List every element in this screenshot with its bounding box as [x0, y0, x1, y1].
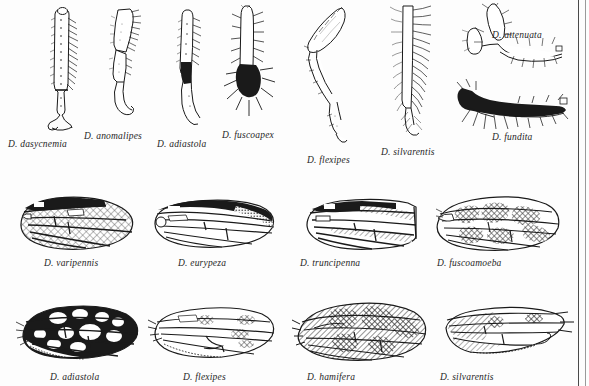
specimen-wing-hamifera [292, 296, 432, 364]
label-wing-varipennis: D. varipennis [44, 258, 98, 268]
specimen-wing-eurypeza [148, 194, 280, 252]
page-edge-border-outer [585, 0, 586, 386]
label-leg-adiastola: D. adiastola [157, 139, 206, 149]
specimen-wing-silvarentis [440, 302, 574, 362]
specimen-leg-silvarentis [386, 4, 442, 136]
label-wing-flexipes: D. flexipes [183, 372, 226, 382]
label-leg-fundita: D. fundita [492, 132, 533, 142]
specimen-leg-adiastola [168, 8, 210, 132]
label-wing-fuscoamoeba: D. fuscoamoeba [437, 258, 502, 268]
label-wing-hamifera: D. hamifera [307, 372, 355, 382]
specimen-wing-adiastola [14, 300, 144, 362]
figure-plate: D. dasycnemia [0, 0, 589, 386]
label-wing-truncipenna: D. truncipenna [300, 258, 360, 268]
specimen-leg-anomalipes [102, 8, 148, 128]
specimen-wing-varipennis [12, 192, 140, 254]
specimen-wing-fuscoamoeba [432, 190, 564, 254]
label-leg-silvarentis: D. silvarentis [381, 147, 435, 157]
specimen-wing-flexipes [148, 302, 280, 362]
label-wing-eurypeza: D. eurypeza [178, 258, 226, 268]
specimen-leg-flexipes [296, 4, 358, 150]
specimen-leg-fundita [448, 78, 572, 132]
label-wing-silvarentis: D. silvarentis [440, 372, 494, 382]
page-edge-border [578, 0, 579, 386]
specimen-leg-dasycnemia [44, 6, 90, 134]
label-leg-anomalipes: D. anomalipes [84, 131, 142, 141]
specimen-wing-truncipenna [300, 193, 426, 253]
label-wing-adiastola: D. adiastola [50, 372, 99, 382]
label-leg-dasycnemia: D. dasycnemia [8, 139, 67, 149]
label-leg-flexipes: D. flexipes [307, 155, 350, 165]
specimen-leg-fuscoapex [222, 4, 276, 126]
label-leg-attenuata: D. attenuata [492, 30, 542, 40]
label-leg-fuscoapex: D. fuscoapex [222, 130, 274, 140]
